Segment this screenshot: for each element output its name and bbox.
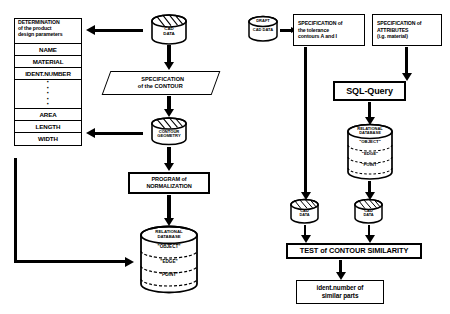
attributes-line-3: (i.g. material) (377, 33, 408, 39)
connector-tolerance-to-cad (304, 47, 307, 194)
connector-cad-to-spec (167, 45, 171, 63)
contour-geometry-cylinder: CONTOUR GEOMETRY (150, 117, 188, 147)
flowchart-diagram: DETERMINATION of the product design para… (0, 0, 450, 314)
table-row: AREA (15, 109, 81, 121)
result-box: ident.number of similar parts (296, 280, 384, 304)
arrowhead-down (164, 163, 174, 171)
cad-data-cylinder-right: CAD DATA (353, 199, 384, 225)
result-line-1: ident.number of (317, 284, 364, 292)
specification-tolerance-box: SPECIFICATION of the tolerance contours … (293, 14, 365, 46)
connector-attributes-to-sql (405, 47, 408, 74)
arrowhead-down (164, 218, 174, 226)
attribute-table: DETERMINATION of the product design para… (14, 18, 82, 146)
connector-program-to-database (167, 195, 171, 219)
connector-geometry-to-program (167, 147, 171, 164)
table-row: NAME (15, 44, 81, 56)
tolerance-line-3: contours A and I (298, 33, 337, 39)
arrowhead-down (365, 235, 375, 243)
arrowhead-left (86, 128, 95, 138)
connector-table-vertical (14, 158, 17, 263)
connector-table-horizontal (14, 260, 126, 263)
result-line-2: similar parts (322, 292, 359, 300)
arrowhead-down (164, 62, 174, 70)
relational-database-cylinder-left: RELATIONAL DATABASE "OBJECT" "EDGE" "POI… (136, 226, 202, 296)
table-header: DETERMINATION of the product design para… (15, 19, 81, 44)
test-contour-similarity-box: TEST of CONTOUR SIMILARITY (286, 243, 422, 259)
relational-database-cylinder-right: RELATIONAL DATABASE "OBJECT" "EDGE" "POI… (344, 124, 396, 182)
specification-contour-node: SPECIFICATION of the CONTOUR (102, 71, 221, 95)
cad-data-cylinder: CAD DATA (150, 14, 188, 46)
arrowhead-down (402, 73, 412, 81)
sql-query-box: SQL-Query (333, 81, 406, 101)
cad-data-cylinder-left: CAD DATA (289, 199, 320, 225)
connector-cad-to-table (95, 29, 143, 32)
program-line-1: PROGRAM of (151, 176, 186, 183)
arrowhead-down (336, 272, 346, 280)
arrowhead-left (86, 25, 95, 35)
arrowhead-down (164, 109, 174, 117)
arrowhead-right (125, 257, 134, 267)
spec-contour-line-2: of the CONTOUR (137, 83, 182, 90)
connector-sql-to-database (368, 102, 371, 118)
table-row: WIDTH (15, 133, 81, 145)
spec-contour-line-1: SPECIFICATION (141, 76, 184, 83)
arrowhead-down (301, 235, 311, 243)
header-line-3: design parameters (18, 31, 62, 37)
program-line-2: NORMALIZATION (146, 183, 191, 190)
dot: · (47, 102, 50, 108)
connector-spec-to-geometry (167, 96, 171, 110)
table-ellipsis: · · · · · (15, 80, 81, 109)
table-row: MATERIAL (15, 56, 81, 68)
program-normalization-box: PROGRAM of NORMALIZATION (128, 172, 210, 194)
connector-geometry-to-table (95, 132, 143, 135)
table-row: LENGTH (15, 121, 81, 133)
specification-attributes-box: SPECIFICATION of ATTRIBUTES (i.g. materi… (372, 14, 442, 46)
draft-cad-data-cylinder: DRAFT CAD DATA (247, 16, 279, 43)
